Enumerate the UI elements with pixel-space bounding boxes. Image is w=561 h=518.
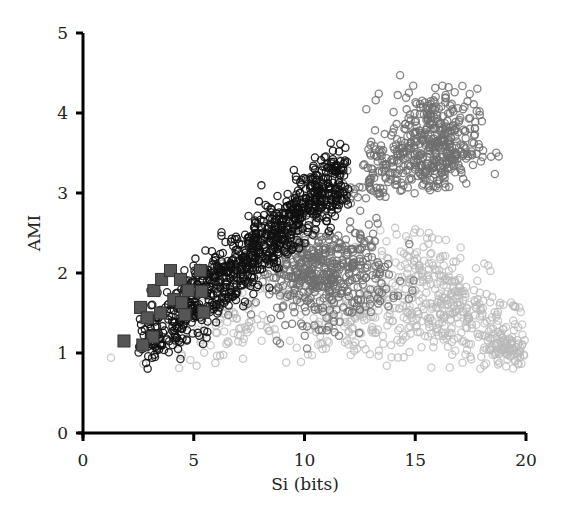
x-tick-label: 15 <box>404 450 426 470</box>
x-tick-label: 0 <box>78 450 89 470</box>
y-tick-label: 0 <box>57 423 68 443</box>
square-marker <box>198 306 210 318</box>
square-marker <box>148 285 160 297</box>
square-marker <box>137 339 149 351</box>
square-marker <box>174 273 186 285</box>
x-axis-label: Si (bits) <box>271 474 339 494</box>
y-tick-label: 4 <box>57 103 68 123</box>
x-tick-label: 10 <box>294 450 316 470</box>
y-tick-label: 2 <box>57 263 68 283</box>
square-marker <box>176 297 188 309</box>
y-tick-label: 1 <box>57 343 68 363</box>
y-tick-label: 3 <box>57 183 68 203</box>
x-tick-label: 5 <box>188 450 199 470</box>
square-marker <box>155 307 167 319</box>
square-marker <box>196 285 208 297</box>
y-axis-label: AMI <box>24 215 44 252</box>
square-marker <box>141 312 153 324</box>
square-marker <box>182 285 194 297</box>
x-axis: 05101520 Si (bits) <box>78 433 537 494</box>
square-marker <box>118 335 130 347</box>
scatter-chart: 012345 AMI 05101520 Si (bits) <box>0 0 561 518</box>
y-axis: 012345 AMI <box>24 23 83 443</box>
square-marker <box>179 309 191 321</box>
y-tick-label: 5 <box>57 23 68 43</box>
square-marker <box>194 265 206 277</box>
data-points <box>107 72 528 373</box>
x-tick-label: 20 <box>515 450 537 470</box>
